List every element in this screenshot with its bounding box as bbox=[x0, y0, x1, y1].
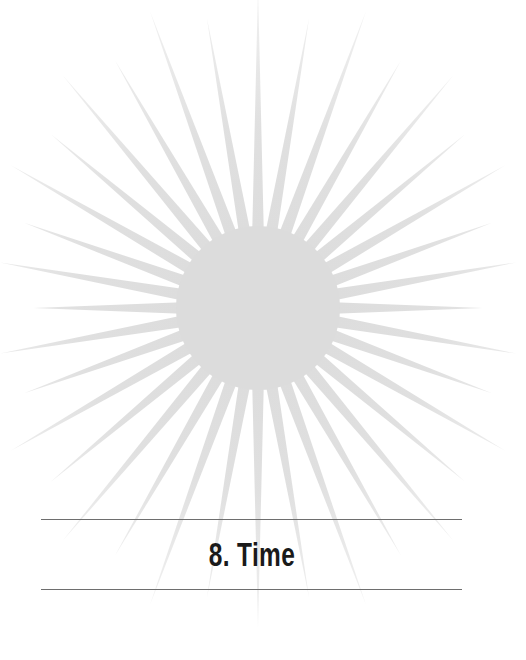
top-divider bbox=[41, 519, 462, 520]
chapter-heading: 8. Time bbox=[71, 530, 434, 578]
bottom-divider bbox=[41, 589, 462, 590]
